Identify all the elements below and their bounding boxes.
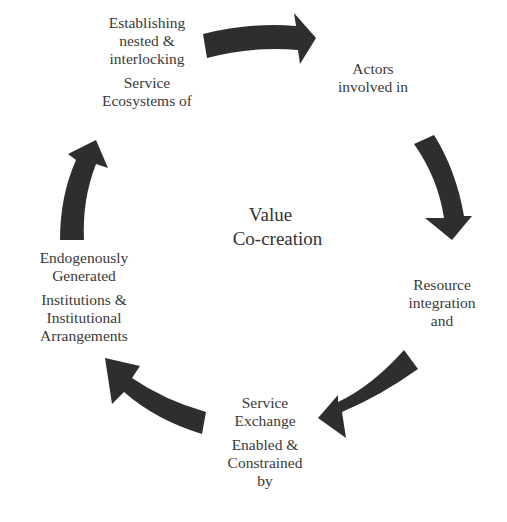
center-title-line: Co-creation <box>215 227 340 251</box>
node-actors: Actors involved in <box>318 60 428 96</box>
node-ecosystems-line: Ecosystems of <box>82 92 212 110</box>
node-service-exchange-line: Exchange <box>210 412 320 430</box>
node-service-exchange-line: Service <box>210 394 320 412</box>
node-resource: Resource integration and <box>382 276 502 330</box>
node-actors-line: involved in <box>318 78 428 96</box>
node-resource-line: and <box>382 312 502 330</box>
node-ecosystems-line: interlocking <box>82 50 212 68</box>
arrow-institutions-to-ecosystems-icon <box>60 140 108 240</box>
node-service-exchange-line: Enabled & <box>210 436 320 454</box>
node-institutions: Endogenously Generated Institutions & In… <box>14 249 154 345</box>
node-actors-line: Actors <box>318 60 428 78</box>
node-resource-line: integration <box>382 294 502 312</box>
node-service-exchange-line: by <box>210 472 320 490</box>
node-ecosystems-line: Establishing <box>82 14 212 32</box>
node-ecosystems: Establishing nested & interlocking Servi… <box>82 14 212 110</box>
node-ecosystems-line: Service <box>82 74 212 92</box>
node-ecosystems-line: nested & <box>82 32 212 50</box>
arrow-actors-to-resource-icon <box>414 135 472 240</box>
node-service-exchange: Service Exchange Enabled & Constrained b… <box>210 394 320 490</box>
arrow-exchange-to-institutions-icon <box>105 358 206 434</box>
node-service-exchange-line: Constrained <box>210 454 320 472</box>
center-title-line: Value <box>215 203 340 227</box>
node-institutions-line: Institutional <box>14 309 154 327</box>
arrow-ecosystems-to-actors-icon <box>203 13 316 64</box>
node-institutions-line: Arrangements <box>14 327 154 345</box>
center-title: Value Co-creation <box>215 203 340 251</box>
node-institutions-line: Endogenously <box>14 249 154 267</box>
arrow-resource-to-exchange-icon <box>318 350 418 438</box>
node-institutions-line: Institutions & <box>14 291 154 309</box>
node-resource-line: Resource <box>382 276 502 294</box>
node-institutions-line: Generated <box>14 267 154 285</box>
